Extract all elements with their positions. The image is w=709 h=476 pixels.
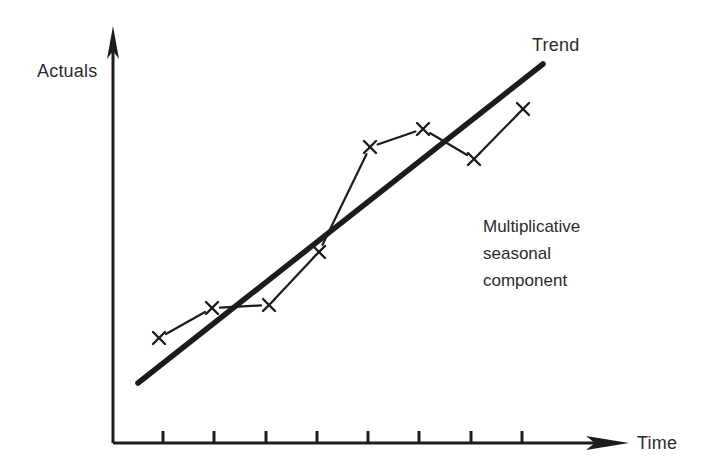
seasonal-component-annotation: Multiplicative seasonal component — [483, 213, 580, 294]
x-axis-ticks — [163, 431, 522, 443]
data-point-marker — [468, 153, 480, 165]
actuals-segment — [378, 132, 416, 145]
actuals-segment — [274, 258, 313, 299]
data-point-marker — [313, 246, 325, 258]
actuals-segment — [480, 115, 518, 154]
trend-line-label: Trend — [532, 35, 579, 56]
data-point-marker — [206, 302, 218, 314]
data-point-marker — [153, 332, 165, 344]
actuals-segment — [166, 312, 205, 334]
data-point-marker — [263, 299, 275, 311]
annotation-line-3: component — [483, 267, 580, 294]
data-point-marker — [417, 123, 429, 135]
data-point-marker — [517, 103, 529, 115]
x-axis-label: Time — [637, 433, 677, 454]
chart-figure: Actuals Time Trend Multiplicative season… — [0, 0, 709, 476]
y-axis-label: Actuals — [37, 61, 97, 82]
chart-canvas — [0, 0, 709, 476]
data-point-marker — [364, 141, 376, 153]
annotation-line-1: Multiplicative — [483, 213, 580, 240]
annotation-line-2: seasonal — [483, 240, 580, 267]
